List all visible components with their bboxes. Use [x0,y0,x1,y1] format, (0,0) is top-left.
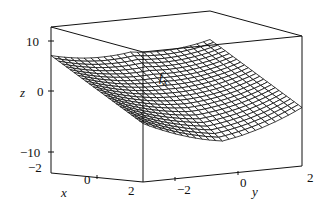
x-axis-label: x [60,185,67,200]
x-tick-label-minus2: −2 [28,160,42,175]
surface-mesh [51,40,302,142]
x-tick-label-0: 0 [84,172,91,187]
z-tick-label-0: 0 [37,84,44,99]
function-label-subscript: x [162,75,168,87]
x-tick-label-2: 2 [128,183,135,198]
y-tick-label-0: 0 [240,175,247,190]
y-axis-label: y [250,184,258,199]
surface-plot: 10 0 z −10 −2 0 x 2 −2 0 y 2 fx [0,0,324,204]
y-axis-line [143,166,302,182]
z-axis-label: z [19,85,25,100]
box-edge-right-top [210,11,302,36]
z-tick-label-minus10: −10 [20,145,40,160]
y-tick-label-2: 2 [307,170,314,185]
bounding-box-back [51,11,302,36]
z-tick-label-10: 10 [26,34,39,49]
y-tick-label-minus2: −2 [177,182,191,197]
box-edge-left-top [51,27,143,52]
box-edge-back-top [51,11,210,27]
